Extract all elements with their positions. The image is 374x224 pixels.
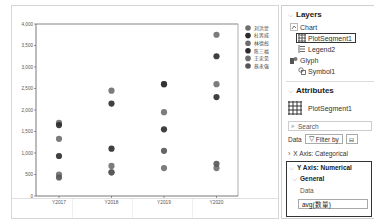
data-point[interactable] xyxy=(213,53,219,59)
data-point[interactable] xyxy=(161,126,167,132)
y-tick-label: 4,000 xyxy=(22,22,34,27)
divider xyxy=(286,81,374,82)
symbol-icon xyxy=(298,67,306,75)
y-tick-label: 3,500 xyxy=(22,43,34,48)
chevron-right-icon: › xyxy=(288,150,290,157)
legend-label: 刘洪蒙 xyxy=(254,25,269,32)
legend-icon xyxy=(298,45,306,53)
legend-label: 蔡永强 xyxy=(254,63,269,70)
legend-swatch xyxy=(245,56,251,62)
filter-by-button[interactable]: ▽ Filter by xyxy=(305,134,343,144)
layer-plot-segment[interactable]: PlotSegment1 xyxy=(296,33,356,43)
legend-swatch xyxy=(245,25,251,31)
layer-legend[interactable]: Legend2 xyxy=(298,45,335,53)
y-tick-label: 500 xyxy=(25,172,33,177)
x-tick-label: Y2019 xyxy=(157,200,171,205)
legend-swatch xyxy=(245,40,251,46)
y-tick-label: 2,500 xyxy=(22,86,34,91)
grid-icon xyxy=(298,34,306,42)
y-axis-section[interactable]: ⌵Y Axis: Numerical xyxy=(289,164,352,172)
search-input[interactable]: ⌕ Search xyxy=(288,121,372,131)
data-point[interactable] xyxy=(56,174,62,180)
layer-symbol[interactable]: Symbol1 xyxy=(298,67,335,75)
layers-header[interactable]: ⌵Layers xyxy=(288,10,322,19)
y-tick-label: 1,000 xyxy=(22,151,34,156)
legend-swatch xyxy=(245,63,251,69)
data-point[interactable] xyxy=(213,161,219,167)
data-point[interactable] xyxy=(161,81,167,87)
legend-swatch xyxy=(245,48,251,54)
data-field-input[interactable]: avg(数量) xyxy=(298,199,368,209)
data-filter-row: Data ▽ Filter by ⊟ xyxy=(288,134,358,144)
search-icon: ⌕ xyxy=(291,122,295,130)
data-point[interactable] xyxy=(108,146,114,152)
data-point[interactable] xyxy=(56,136,62,142)
legend-label: 陈三福 xyxy=(254,48,269,55)
data-point[interactable] xyxy=(56,153,62,159)
data-field-label: Data xyxy=(300,187,314,194)
data-point[interactable] xyxy=(108,100,114,106)
chart-canvas[interactable]: 05001,0001,5002,0002,5003,0003,5004,000Y… xyxy=(11,5,279,219)
legend-label: 王忠见 xyxy=(254,56,269,62)
x-tick-label: Y2018 xyxy=(105,200,119,205)
data-point[interactable] xyxy=(108,169,114,175)
attributes-target: PlotSegment1 xyxy=(288,101,352,115)
x-tick-label: Y2020 xyxy=(210,200,224,205)
chart-layer-icon xyxy=(290,23,298,31)
layer-glyph[interactable]: Glyph xyxy=(290,56,318,64)
data-point[interactable] xyxy=(213,81,219,87)
data-point[interactable] xyxy=(56,122,62,128)
y-tick-label: 1,500 xyxy=(22,129,34,134)
attributes-header[interactable]: ⌵Attributes xyxy=(288,86,334,95)
general-section[interactable]: ⌵General xyxy=(292,175,324,183)
group-icon: ⊟ xyxy=(349,136,354,143)
y-tick-label: 2,000 xyxy=(22,108,34,113)
chevron-down-icon: ⌵ xyxy=(289,164,294,172)
data-point[interactable] xyxy=(213,94,219,100)
legend-label: 林德彪 xyxy=(254,40,269,47)
chevron-down-icon: ⌵ xyxy=(292,175,297,183)
funnel-icon: ▽ xyxy=(309,135,314,143)
y-tick-label: 0 xyxy=(30,194,33,199)
data-point[interactable] xyxy=(108,88,114,94)
data-point[interactable] xyxy=(161,165,167,171)
chevron-down-icon: ⌵ xyxy=(288,87,293,95)
legend-label: 杜男威 xyxy=(254,32,269,39)
data-point[interactable] xyxy=(161,148,167,154)
glyph-icon xyxy=(290,56,298,64)
y-tick-label: 3,000 xyxy=(22,65,34,70)
x-axis-section[interactable]: ›X Axis: Categorical xyxy=(288,150,348,157)
chevron-down-icon: ⌵ xyxy=(288,11,293,19)
properties-panel: ⌵Layers Chart PlotSegment1 Legend2 Glyph… xyxy=(281,5,374,219)
scatter-chart[interactable]: 05001,0001,5002,0002,5003,0003,5004,000Y… xyxy=(12,6,278,218)
plot-segment-grid-icon xyxy=(288,101,302,115)
data-point[interactable] xyxy=(108,163,114,169)
x-tick-label: Y2017 xyxy=(52,200,66,205)
layer-chart[interactable]: Chart xyxy=(290,23,317,31)
data-point[interactable] xyxy=(213,32,219,38)
legend-swatch xyxy=(245,33,251,39)
group-by-button[interactable]: ⊟ xyxy=(346,134,358,144)
data-point[interactable] xyxy=(161,109,167,115)
